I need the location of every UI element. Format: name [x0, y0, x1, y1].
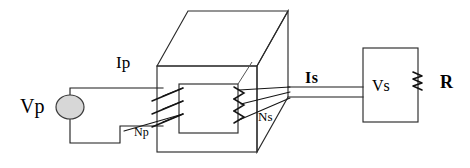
secondary-turn-1 — [234, 87, 244, 99]
label-primary-voltage: Vp — [20, 96, 44, 116]
core-right-face — [257, 11, 288, 152]
core-front-face — [157, 66, 257, 152]
ac-source-symbol — [56, 95, 84, 119]
label-secondary-current: Is — [305, 70, 318, 86]
primary-top-wire — [70, 88, 163, 95]
core-top-face — [157, 11, 288, 66]
secondary-turn-3 — [234, 111, 244, 123]
core-window-depth-top — [238, 62, 252, 84]
primary-turn-back-1 — [163, 88, 183, 96]
secondary-lead-mid — [241, 92, 290, 104]
label-load-resistor: R — [440, 73, 453, 91]
label-primary-turns: Np — [134, 126, 149, 138]
label-primary-current: Ip — [116, 54, 130, 71]
primary-bottom-wire — [70, 119, 163, 143]
secondary-turn-2 — [234, 99, 244, 111]
label-secondary-voltage: Vs — [372, 78, 390, 94]
primary-winding-lead — [124, 114, 183, 131]
transformer-circuit-diagram — [0, 0, 470, 168]
figure-canvas: Vp Ip Np Ns Is Vs R — [0, 0, 470, 168]
load-resistor-zigzag — [413, 72, 422, 90]
secondary-lead-upper — [239, 87, 290, 90]
label-secondary-turns: Ns — [258, 110, 272, 123]
primary-turn-back-2 — [163, 101, 183, 109]
core-window-front — [179, 84, 238, 133]
